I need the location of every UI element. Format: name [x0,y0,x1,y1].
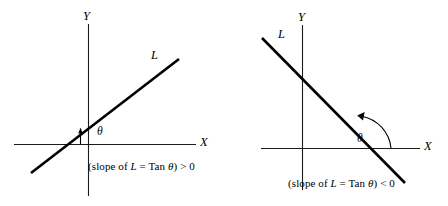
caption-close: ) > 0 [174,160,195,172]
line-L-label: L [151,49,158,62]
caption-positive-slope: (slope of L = Tan θ) > 0 [88,161,195,172]
angle-theta-label: θ [97,126,103,138]
angle-theta-label: θ [357,133,363,145]
caption-eq: = Tan [337,177,368,189]
caption-open: (slope of [288,177,331,189]
caption-open: (slope of [88,160,131,172]
line-L [262,38,405,183]
figure-root: X Y L θ (slope of L = Tan θ) > 0 X Y L θ… [0,0,448,206]
y-axis-label: Y [298,11,305,24]
panel-negative-slope: X Y L θ (slope of L = Tan θ) < 0 [224,0,448,206]
caption-close: ) < 0 [374,177,395,189]
positive-slope-drawing [0,0,224,206]
caption-eq: = Tan [137,160,168,172]
panel-positive-slope: X Y L θ (slope of L = Tan θ) > 0 [0,0,224,206]
x-axis-label: X [200,136,208,149]
line-L [31,59,179,173]
negative-slope-drawing [224,0,448,206]
caption-negative-slope: (slope of L = Tan θ) < 0 [288,178,395,189]
angle-arrowhead [78,128,83,134]
line-L-label: L [278,28,285,41]
y-axis-label: Y [83,10,90,23]
angle-arrowhead [357,112,364,120]
x-axis-label: X [424,140,432,153]
